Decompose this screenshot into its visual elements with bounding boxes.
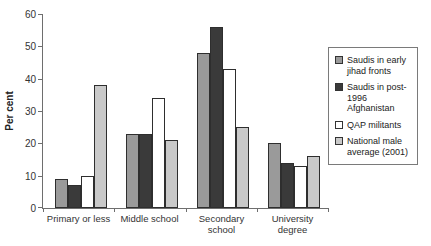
- bar-s2-c1: [152, 98, 165, 208]
- legend-label: QAP militants: [347, 120, 401, 131]
- legend-color-swatch: [335, 83, 343, 91]
- y-tick-label: 40: [8, 74, 36, 85]
- bar-s1-c2: [210, 27, 223, 208]
- bar-s1-c3: [281, 163, 294, 208]
- bar-s0-c3: [268, 143, 281, 208]
- bar-s1-c1: [139, 134, 152, 208]
- legend-color-swatch: [335, 121, 343, 129]
- bar-s3-c3: [307, 156, 320, 208]
- y-tick-mark: [38, 46, 43, 47]
- bar-s3-c1: [165, 140, 178, 208]
- y-tick-mark: [38, 143, 43, 144]
- x-category-label: Primary or less: [43, 213, 114, 224]
- bar-chart-figure: Per cent 0102030405060 Primary or lessMi…: [0, 0, 431, 246]
- bar-s1-c0: [68, 185, 81, 208]
- bar-s2-c0: [81, 176, 94, 208]
- y-tick-label: 10: [8, 171, 36, 182]
- legend-item: QAP militants: [335, 120, 414, 131]
- x-category-label: Secondary school: [186, 213, 257, 235]
- x-category-label: Middle school: [114, 213, 185, 224]
- x-tick-mark: [43, 208, 44, 212]
- y-tick-label: 60: [8, 9, 36, 20]
- x-tick-mark: [114, 208, 115, 212]
- x-category-label: University degree: [257, 213, 328, 235]
- bar-s2-c2: [223, 69, 236, 208]
- bar-s0-c1: [126, 134, 139, 208]
- x-tick-mark: [257, 208, 258, 212]
- legend-label: Saudis in post- 1996 Afghanistan: [347, 82, 414, 114]
- bar-group: [126, 98, 178, 208]
- y-tick-mark: [38, 111, 43, 112]
- y-tick-mark: [38, 14, 43, 15]
- legend-item: Saudis in early jihad fronts: [335, 55, 414, 76]
- legend-label: National male average (2001): [347, 136, 408, 157]
- bar-group: [268, 143, 320, 208]
- y-tick-label: 50: [8, 41, 36, 52]
- bar-group: [197, 27, 249, 208]
- legend-color-swatch: [335, 137, 343, 145]
- bar-s0-c2: [197, 53, 210, 208]
- y-tick-mark: [38, 176, 43, 177]
- y-tick-mark: [38, 79, 43, 80]
- bar-s2-c3: [294, 166, 307, 208]
- x-tick-mark: [186, 208, 187, 212]
- y-tick-label: 20: [8, 138, 36, 149]
- x-tick-mark: [328, 208, 329, 212]
- bar-s0-c0: [55, 179, 68, 208]
- y-tick-label: 30: [8, 106, 36, 117]
- bar-s3-c2: [236, 127, 249, 208]
- legend-color-swatch: [335, 56, 343, 64]
- bar-group: [55, 85, 107, 208]
- legend-item: National male average (2001): [335, 136, 414, 157]
- y-tick-label: 0: [8, 203, 36, 214]
- legend-label: Saudis in early jihad fronts: [347, 55, 406, 76]
- legend: Saudis in early jihad frontsSaudis in po…: [328, 47, 418, 165]
- plot-area: Per cent 0102030405060 Primary or lessMi…: [42, 14, 328, 209]
- bar-s3-c0: [94, 85, 107, 208]
- legend-item: Saudis in post- 1996 Afghanistan: [335, 82, 414, 114]
